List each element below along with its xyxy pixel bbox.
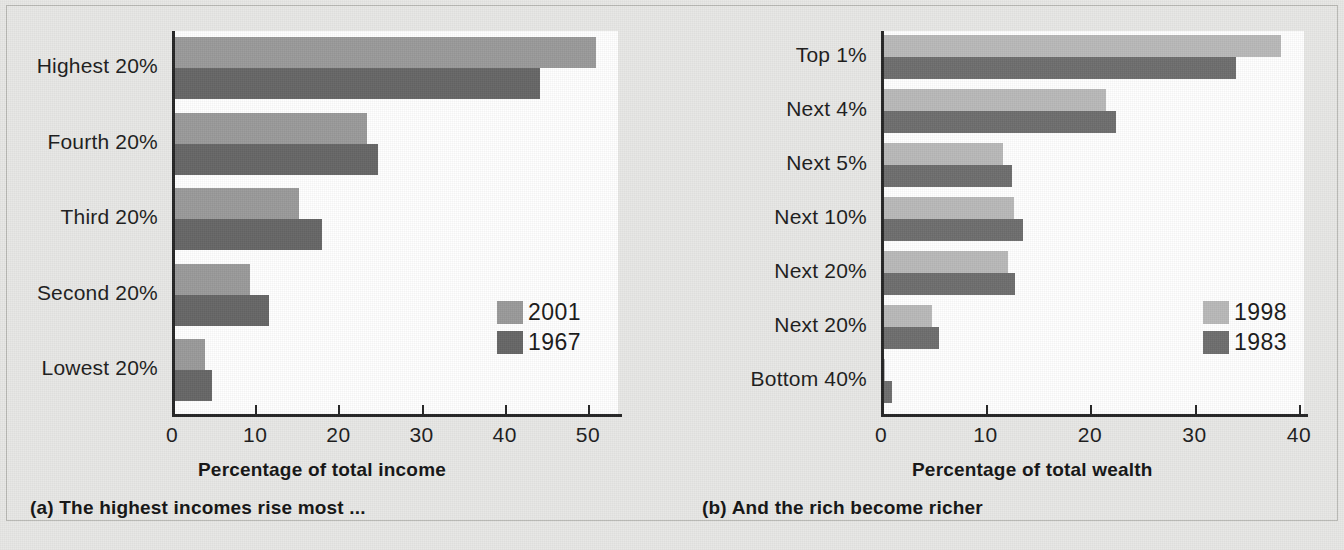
bar-1983-next-20 — [883, 327, 939, 349]
legend-item-1983: 1983 — [1203, 327, 1287, 357]
chart-legend: 19981983 — [1203, 297, 1287, 357]
bar-1967-lowest-20 — [174, 370, 212, 401]
x-axis-tick — [338, 405, 340, 414]
x-axis-tick-label: 20 — [318, 423, 358, 447]
category-label: Next 20% — [774, 259, 867, 283]
x-axis-tick-label: 30 — [1175, 423, 1215, 447]
x-axis-tick-label: 40 — [1279, 423, 1319, 447]
legend-swatch — [1203, 331, 1229, 354]
bar-1983-next-5 — [883, 165, 1012, 187]
category-label: Bottom 40% — [751, 367, 867, 391]
bar-2001-highest-20 — [174, 37, 596, 68]
chart-legend: 20011967 — [497, 297, 581, 357]
x-axis-tick — [255, 405, 257, 414]
x-axis-tick — [1090, 405, 1092, 414]
bar-1967-third-20 — [174, 219, 322, 250]
bar-2001-third-20 — [174, 188, 299, 219]
bar-1998-top-1 — [883, 35, 1281, 57]
legend-label: 1967 — [528, 331, 581, 354]
x-axis-title: Percentage of total wealth — [912, 459, 1153, 481]
x-axis-tick-label: 10 — [966, 423, 1006, 447]
bar-1967-second-20 — [174, 295, 269, 326]
bar-1998-next-5 — [883, 143, 1003, 165]
y-axis-line — [172, 31, 175, 417]
x-axis-line — [172, 414, 622, 417]
category-label: Second 20% — [37, 281, 158, 305]
category-label: Highest 20% — [37, 54, 158, 78]
x-axis-tick-label: 0 — [861, 423, 901, 447]
legend-swatch — [497, 301, 523, 324]
bar-2001-lowest-20 — [174, 339, 205, 370]
category-label: Third 20% — [60, 205, 158, 229]
legend-label: 1998 — [1234, 301, 1287, 324]
bar-1983-bottom-40 — [883, 381, 892, 403]
legend-swatch — [1203, 301, 1229, 324]
category-label: Next 5% — [786, 151, 867, 175]
x-axis-tick-label: 0 — [152, 423, 192, 447]
x-axis-tick-label: 10 — [235, 423, 275, 447]
category-label: Next 20% — [774, 313, 867, 337]
legend-item-1998: 1998 — [1203, 297, 1287, 327]
bar-1998-next-20 — [883, 251, 1008, 273]
x-axis-tick-label: 20 — [1070, 423, 1110, 447]
bar-1967-highest-20 — [174, 68, 540, 99]
legend-item-2001: 2001 — [497, 297, 581, 327]
x-axis-tick-label: 30 — [402, 423, 442, 447]
x-axis-tick — [505, 405, 507, 414]
bar-1967-fourth-20 — [174, 144, 378, 175]
bar-1998-next-20 — [883, 305, 932, 327]
x-axis-tick — [1299, 405, 1301, 414]
x-axis-tick-label: 40 — [485, 423, 525, 447]
bar-1983-next-10 — [883, 219, 1023, 241]
bar-1983-top-1 — [883, 57, 1236, 79]
legend-item-1967: 1967 — [497, 327, 581, 357]
category-label: Lowest 20% — [42, 356, 158, 380]
bar-2001-second-20 — [174, 264, 250, 295]
category-label: Next 10% — [774, 205, 867, 229]
x-axis-tick — [588, 405, 590, 414]
category-label: Fourth 20% — [47, 130, 158, 154]
category-label: Top 1% — [796, 43, 867, 67]
bar-1983-next-20 — [883, 273, 1015, 295]
bar-1983-next-4 — [883, 111, 1116, 133]
x-axis-line — [881, 414, 1308, 417]
category-label: Next 4% — [786, 97, 867, 121]
x-axis-tick — [1195, 405, 1197, 414]
legend-swatch — [497, 331, 523, 354]
x-axis-tick-label: 50 — [568, 423, 608, 447]
x-axis-tick — [422, 405, 424, 414]
bar-1998-next-10 — [883, 197, 1014, 219]
x-axis-tick — [986, 405, 988, 414]
bar-1998-next-4 — [883, 89, 1106, 111]
panel-caption: (b) And the rich become richer — [702, 497, 983, 519]
bar-2001-fourth-20 — [174, 113, 367, 144]
x-axis-title: Percentage of total income — [198, 459, 446, 481]
legend-label: 2001 — [528, 301, 581, 324]
y-axis-line — [881, 31, 884, 417]
legend-label: 1983 — [1234, 331, 1287, 354]
panel-caption: (a) The highest incomes rise most ... — [30, 497, 366, 519]
